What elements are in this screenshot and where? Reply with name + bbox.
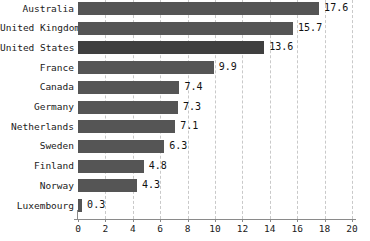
bar-value-label: 9.9 bbox=[219, 60, 237, 74]
tick-mark bbox=[160, 219, 161, 222]
tick-mark bbox=[188, 219, 189, 222]
category-label: Luxembourg bbox=[0, 201, 74, 211]
tick-mark bbox=[242, 219, 243, 222]
tick-label: 0 bbox=[75, 223, 81, 234]
bar bbox=[78, 101, 178, 114]
bar-row: 17.6 bbox=[78, 2, 352, 15]
bar-row: 4.3 bbox=[78, 179, 352, 192]
bar bbox=[78, 160, 144, 173]
tick-label: 20 bbox=[346, 223, 357, 234]
tick-mark bbox=[105, 219, 106, 222]
tick-label: 18 bbox=[319, 223, 330, 234]
bar-row: 15.7 bbox=[78, 22, 352, 35]
category-label: France bbox=[0, 63, 74, 73]
bar bbox=[78, 179, 137, 192]
bar-value-label: 7.4 bbox=[184, 80, 202, 94]
bar-value-label: 15.7 bbox=[298, 21, 322, 35]
bar-value-label: 4.8 bbox=[149, 159, 167, 173]
category-label: United Kingdom bbox=[0, 23, 74, 33]
gridline bbox=[352, 0, 353, 219]
tick-label: 14 bbox=[264, 223, 275, 234]
bar-value-label: 7.1 bbox=[180, 119, 198, 133]
tick-mark bbox=[78, 219, 79, 222]
bar bbox=[78, 199, 82, 212]
bar-value-label: 17.6 bbox=[324, 1, 348, 15]
bar-row: 4.8 bbox=[78, 160, 352, 173]
tick-label: 12 bbox=[237, 223, 248, 234]
bar-row: 13.6 bbox=[78, 41, 352, 54]
tick-label: 2 bbox=[103, 223, 109, 234]
bar-row: 7.1 bbox=[78, 120, 352, 133]
category-label: Germany bbox=[0, 102, 74, 112]
bar bbox=[78, 22, 293, 35]
bar-value-label: 0.3 bbox=[87, 198, 105, 212]
bar-row: 7.3 bbox=[78, 101, 352, 114]
tick-mark bbox=[325, 219, 326, 222]
bar bbox=[78, 120, 175, 133]
category-axis-labels: AustraliaUnited KingdomUnited StatesFran… bbox=[0, 0, 74, 219]
category-label: Finland bbox=[0, 161, 74, 171]
category-label: Sweden bbox=[0, 141, 74, 151]
bar-value-label: 4.3 bbox=[142, 178, 160, 192]
bar bbox=[78, 41, 264, 54]
bar-row: 7.4 bbox=[78, 81, 352, 94]
category-label: United States bbox=[0, 43, 74, 53]
bar bbox=[78, 140, 164, 153]
bar bbox=[78, 2, 319, 15]
tick-label: 10 bbox=[209, 223, 220, 234]
bar-value-label: 13.6 bbox=[269, 40, 293, 54]
category-label: Norway bbox=[0, 181, 74, 191]
category-label: Canada bbox=[0, 82, 74, 92]
category-label: Australia bbox=[0, 4, 74, 14]
bar bbox=[78, 61, 214, 74]
bar-row: 6.3 bbox=[78, 140, 352, 153]
tick-label: 4 bbox=[130, 223, 136, 234]
tick-mark bbox=[270, 219, 271, 222]
tick-mark bbox=[133, 219, 134, 222]
bar-value-label: 6.3 bbox=[169, 139, 187, 153]
plot-area: 17.615.713.69.97.47.37.16.34.84.30.3 bbox=[78, 0, 352, 219]
category-label: Netherlands bbox=[0, 122, 74, 132]
bar-chart: AustraliaUnited KingdomUnited StatesFran… bbox=[0, 0, 370, 241]
value-axis-ticks: 02468101214161820 bbox=[78, 219, 352, 241]
bar-value-label: 7.3 bbox=[183, 100, 201, 114]
tick-label: 8 bbox=[185, 223, 191, 234]
bar bbox=[78, 81, 179, 94]
tick-label: 16 bbox=[291, 223, 302, 234]
tick-mark bbox=[215, 219, 216, 222]
bar-row: 0.3 bbox=[78, 199, 352, 212]
tick-mark bbox=[297, 219, 298, 222]
bar-row: 9.9 bbox=[78, 61, 352, 74]
tick-mark bbox=[352, 219, 353, 222]
tick-label: 6 bbox=[157, 223, 163, 234]
